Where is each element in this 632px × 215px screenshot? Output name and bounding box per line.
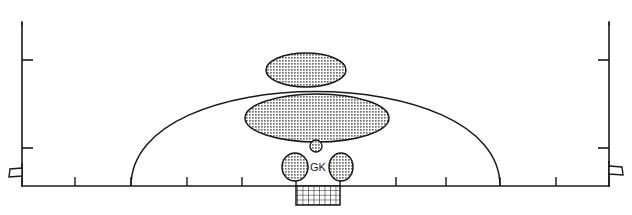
goal-net — [296, 186, 340, 205]
zone-gk-left-post — [282, 153, 308, 181]
zone-gk-right-post — [329, 153, 353, 181]
pitch-svg: GK — [0, 0, 632, 215]
corner-flag-right-banner — [609, 166, 623, 175]
goal-net-mesh — [296, 186, 340, 205]
zone-ball-marker — [310, 140, 322, 152]
corner-flag-left-banner — [9, 168, 22, 177]
pitch-diagram: GK — [0, 0, 632, 215]
goalkeeper-label: GK — [310, 161, 327, 173]
zone-upper-ellipse — [266, 53, 346, 87]
zone-main-ellipse — [245, 94, 389, 142]
